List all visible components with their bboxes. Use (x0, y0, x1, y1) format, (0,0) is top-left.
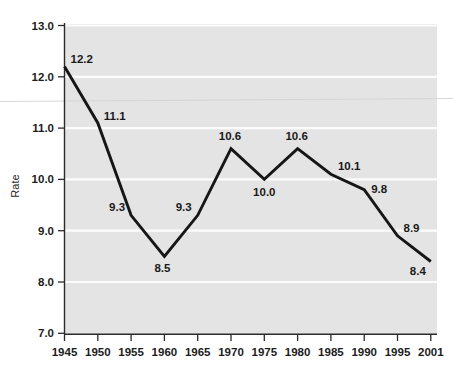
y-tick-label: 8.0 (38, 276, 54, 288)
chart-canvas: 13.0 12.0 11.0 10.0 9.0 8.0 7.0 Rate 194 (0, 0, 453, 371)
data-point-label: 9.3 (176, 201, 192, 213)
x-tick-label: 1965 (185, 346, 211, 358)
y-tick-label: 13.0 (32, 20, 54, 32)
x-tick-label: 1950 (85, 346, 111, 358)
x-tick-label: 1960 (152, 346, 178, 358)
data-point-label: 10.6 (285, 130, 307, 142)
data-point-label: 10.0 (253, 186, 275, 198)
x-tick-label: 1990 (351, 346, 377, 358)
line-chart: 13.0 12.0 11.0 10.0 9.0 8.0 7.0 Rate 194 (0, 0, 453, 371)
y-axis-title: Rate (9, 174, 21, 197)
data-point-label: 12.2 (71, 53, 93, 65)
data-point-label: 11.1 (104, 110, 126, 122)
y-tick-label: 9.0 (38, 225, 54, 237)
y-tick-label: 12.0 (32, 71, 54, 83)
data-point-label: 10.1 (338, 160, 361, 172)
data-point-label: 8.4 (410, 265, 427, 277)
x-tick-label: 2001 (418, 346, 444, 358)
data-point-label: 9.8 (371, 183, 388, 195)
data-point-label: 10.6 (219, 130, 241, 142)
x-tick-label: 1975 (252, 346, 278, 358)
x-tick-label: 1955 (118, 346, 144, 358)
y-tick-label: 7.0 (38, 327, 54, 339)
data-point-label: 8.5 (154, 262, 171, 274)
x-tick-label: 1985 (318, 346, 344, 358)
x-tick-label: 1970 (218, 346, 244, 358)
y-tick-label: 10.0 (32, 173, 54, 185)
data-point-label: 8.9 (404, 222, 420, 234)
x-tick-label: 1995 (385, 346, 411, 358)
data-point-label: 9.3 (109, 201, 125, 213)
x-tick-label: 1945 (52, 346, 78, 358)
y-tick-label: 11.0 (32, 122, 54, 134)
x-tick-label: 1980 (285, 346, 311, 358)
